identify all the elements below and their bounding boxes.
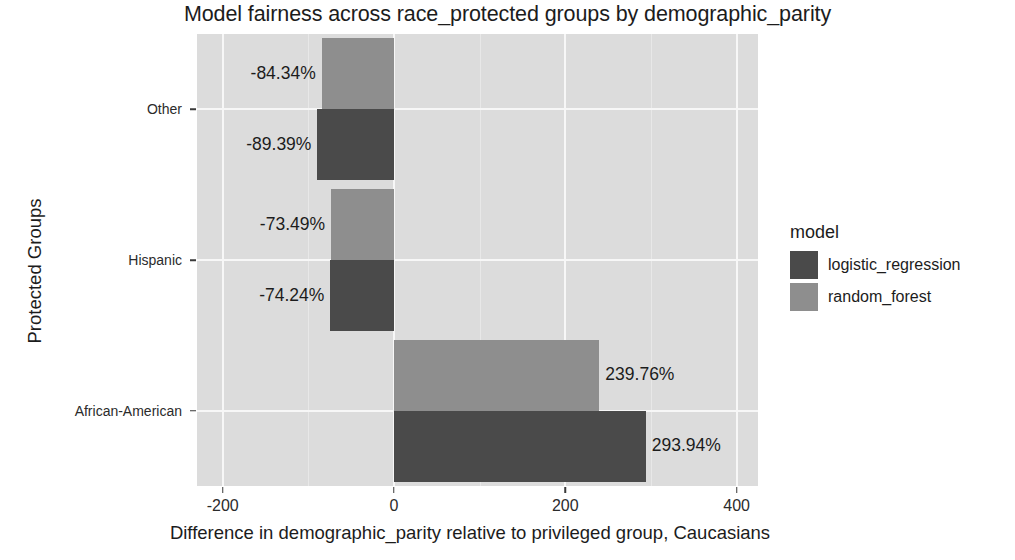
x-axis-tick-mark (736, 487, 738, 493)
bar (317, 109, 394, 180)
x-axis-tick-mark (222, 487, 224, 493)
legend: model logistic_regressionrandom_forest (790, 222, 961, 315)
y-axis-tick-mark (190, 109, 196, 111)
bar (394, 340, 599, 411)
legend-item-label: logistic_regression (828, 256, 961, 274)
legend-item[interactable]: logistic_regression (790, 251, 961, 279)
legend-color-swatch (790, 251, 818, 279)
bar (330, 260, 394, 331)
bar (322, 38, 394, 109)
legend-item-label: random_forest (828, 288, 931, 306)
legend-title: model (790, 222, 961, 243)
y-axis-tick-mark (190, 410, 196, 412)
bar-value-label: -74.24% (259, 287, 324, 305)
bar-value-label: 239.76% (605, 366, 674, 384)
legend-item-list: logistic_regressionrandom_forest (790, 251, 961, 311)
gridline-horizontal (197, 259, 758, 261)
x-axis-tick-label: 400 (723, 497, 750, 515)
bar (331, 189, 394, 260)
y-axis-title: Protected Groups (24, 81, 46, 461)
chart-title: Model fairness across race_protected gro… (0, 2, 1015, 27)
x-axis-tick-label: -200 (207, 497, 239, 515)
legend-item[interactable]: random_forest (790, 283, 961, 311)
x-axis-title: Difference in demographic_parity relativ… (0, 522, 940, 544)
bar-value-label: 293.94% (652, 437, 721, 455)
chart-container: Model fairness across race_protected gro… (0, 0, 1015, 560)
x-axis-tick-label: 0 (390, 497, 399, 515)
x-axis-tick-mark (565, 487, 567, 493)
y-axis-tick-mark (190, 259, 196, 261)
legend-color-swatch (790, 283, 818, 311)
bar-value-label: -84.34% (251, 65, 316, 83)
bar-value-label: -73.49% (260, 216, 325, 234)
x-axis-tick-label: 200 (552, 497, 579, 515)
plot-panel: 239.76%293.94%-73.49%-74.24%-84.34%-89.3… (197, 34, 758, 486)
bar (394, 411, 646, 482)
gridline-horizontal (197, 108, 758, 110)
x-axis-tick-mark (393, 487, 395, 493)
bar-value-label: -89.39% (246, 136, 311, 154)
